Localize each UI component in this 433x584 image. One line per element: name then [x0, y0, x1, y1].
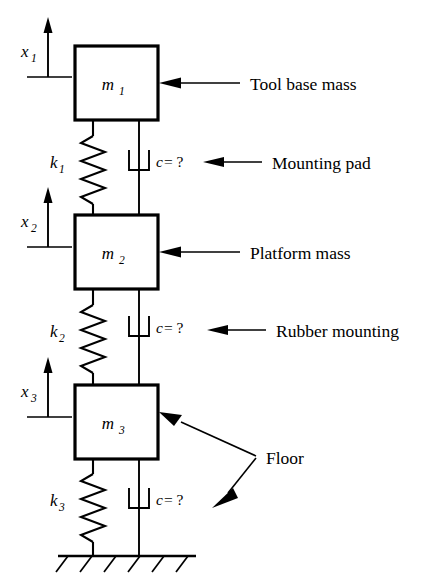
mass-m3-label: m: [102, 414, 114, 433]
spring-k2-label: k: [50, 322, 58, 341]
annotation-tool-base-mass-label: Tool base mass: [250, 74, 357, 94]
spring-k2-subscript: 2: [59, 332, 65, 344]
spring-k2-group: k 2: [50, 289, 105, 385]
ground-hatch-mark: [176, 556, 188, 572]
ground-hatch-mark: [56, 556, 68, 572]
mass-m2-label: m: [102, 244, 114, 263]
annotation-tool-base-mass-group: Tool base mass: [159, 74, 357, 94]
annotation-mounting-pad-label: Mounting pad: [272, 153, 371, 173]
spring-k3-group: k 3: [50, 459, 105, 556]
mass-block-m2: [75, 215, 158, 289]
annotation-floor-lower-shaft: [228, 458, 256, 493]
damper-c1-group: c = ?: [129, 120, 184, 215]
mass-m3-subscript: 3: [118, 424, 125, 436]
coordinate-x2-subscript: 2: [31, 222, 37, 234]
annotation-floor-lower-arrowhead: [212, 488, 238, 508]
damper-c2-group: c = ?: [129, 289, 184, 385]
spring-k3-coil: [81, 474, 105, 542]
coordinate-x3-label: x: [20, 382, 29, 401]
annotation-platform-mass-arrowhead: [159, 247, 181, 258]
spring-k1-group: k 1: [50, 120, 105, 215]
coordinate-x1-label: x: [20, 42, 29, 61]
coordinate-x2-label: x: [20, 212, 29, 231]
coordinate-x3-subscript: 3: [30, 392, 37, 404]
spring-k1-label: k: [50, 153, 58, 172]
coordinate-x2-arrowhead: [44, 187, 53, 203]
spring-k1-subscript: 1: [59, 163, 65, 175]
annotation-rubber-mounting-label: Rubber mounting: [276, 321, 399, 341]
annotation-rubber-mounting-arrowhead: [207, 325, 228, 335]
annotation-floor-upper-arrowhead: [159, 412, 182, 426]
damper-c1-symbol: c: [156, 153, 163, 170]
spring-k3-subscript: 3: [58, 501, 65, 513]
spring-k2-coil: [81, 305, 105, 373]
ground-hatch-mark: [80, 556, 92, 572]
vibration-model-canvas: m 1 x 1 Tool base mass k 1: [0, 0, 433, 584]
spring-k3-label: k: [50, 491, 58, 510]
mass-block-m1: [75, 46, 158, 120]
coordinate-x1-group: x 1: [20, 17, 72, 77]
mass-m1-label: m: [102, 75, 114, 94]
mass-m1-subscript: 1: [119, 85, 125, 97]
annotation-mounting-pad-arrowhead: [203, 157, 224, 167]
annotation-floor-upper-shaft: [181, 422, 256, 456]
damper-c3-symbol: c: [156, 491, 163, 508]
coordinate-x3-arrowhead: [44, 357, 53, 373]
annotation-mounting-pad-group: Mounting pad: [203, 153, 371, 173]
fixed-ground-group: [56, 556, 196, 572]
mass-m2-subscript: 2: [119, 254, 125, 266]
damper-c3-value: = ?: [164, 491, 184, 508]
damper-c2-symbol: c: [156, 319, 163, 336]
coordinate-x1-subscript: 1: [31, 52, 37, 64]
damper-c3-group: c = ?: [129, 459, 184, 556]
damper-c1-value: = ?: [164, 153, 184, 170]
mass-block-m3: [75, 385, 158, 459]
mass-block-m1-group: m 1: [75, 46, 158, 120]
coordinate-x1-arrowhead: [44, 17, 53, 33]
ground-hatch-mark: [104, 556, 116, 572]
annotation-rubber-mounting-group: Rubber mounting: [207, 321, 399, 341]
annotation-platform-mass-label: Platform mass: [250, 243, 351, 263]
vibration-diagram-figure: m 1 x 1 Tool base mass k 1: [0, 0, 433, 584]
ground-hatch-mark: [152, 556, 164, 572]
spring-k1-coil: [81, 136, 105, 204]
coordinate-x3-group: x 3: [20, 357, 72, 417]
damper-c2-value: = ?: [164, 319, 184, 336]
annotation-platform-mass-group: Platform mass: [159, 243, 351, 263]
coordinate-x2-group: x 2: [20, 187, 72, 247]
mass-block-m3-group: m 3: [75, 385, 158, 459]
annotation-tool-base-mass-arrowhead: [159, 78, 181, 89]
mass-block-m2-group: m 2: [75, 215, 158, 289]
ground-hatch-mark: [128, 556, 140, 572]
annotation-floor-label: Floor: [266, 448, 304, 468]
